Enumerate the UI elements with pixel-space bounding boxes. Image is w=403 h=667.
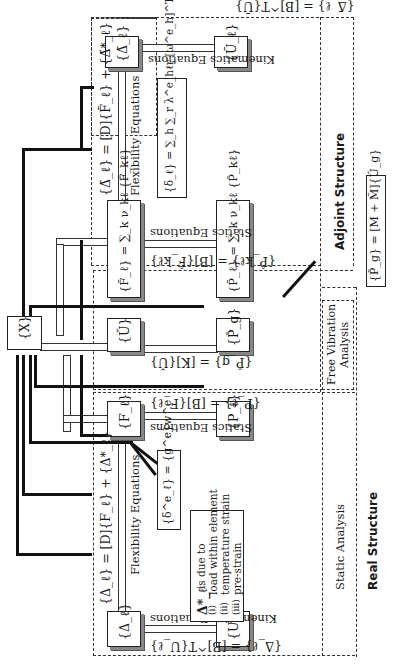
real-flexibility-eq: {Δ_ℓ} = [D]{F_ℓ} + {Δ*_ℓ}	[98, 431, 114, 605]
adjoint-statics-eq: {P̂_kℓ} = [B]{F̂_kℓ}	[150, 253, 276, 269]
x-vertical-link-a	[56, 244, 64, 336]
adjoint-flexibility-eq: {Δ̄_ℓ} = [D]{F̄_ℓ} + {Δ̄*_ℓ}	[98, 22, 114, 196]
real-structure-top	[322, 287, 356, 288]
free-vibration-eq: {P̌_g} = [K]{Ǔ}	[150, 355, 253, 370]
adjoint-structure-label: Adjoint Structure	[333, 133, 347, 250]
x-to-delta-star2-v	[22, 355, 25, 495]
x-to-fbar-link	[56, 238, 110, 246]
free-vibration-label-1: Free Vibration	[325, 304, 338, 385]
delta-l-node: {Δ_ℓ}	[107, 611, 141, 647]
note-item-3-text: pre-strain	[231, 542, 243, 595]
pg-mass-label: {P̌_g} = [M + M̃]{Ǔ_g}	[368, 149, 381, 282]
pg-mass-node: {P̌_g} = [M + M̃]{Ǔ_g}	[366, 175, 386, 287]
x-to-fbar-thick-h	[29, 305, 204, 308]
p-check-node: {P̌_g}	[216, 318, 250, 352]
x-to-delta-bar-arrow-v2	[80, 87, 83, 149]
x-to-delta-l-h	[16, 553, 92, 556]
x-to-delta-star-h	[29, 441, 133, 444]
delta-sum-box: {δ_ℓ} = ∑_h ∑_r λ^e_hℓr [ω^e_h]^T {s^e_h…	[157, 78, 187, 198]
p-check-label: {P̌_g}	[226, 307, 241, 346]
x-to-fbar-thick2	[80, 240, 83, 340]
static-analysis-divider	[322, 392, 323, 656]
note-item-2-text: temperature strain	[219, 494, 231, 595]
free-vibration-bottom	[93, 389, 323, 390]
static-analysis-label: Static Analysis	[333, 504, 347, 590]
adjoint-kinematics-eq: {Δ̄_ℓ} = [B]^T{Ū}	[235, 0, 355, 14]
adjoint-kinematics-link	[138, 44, 215, 52]
real-kinematics-eq: {Δ_ℓ} = [B]^T{U_ℓ}	[150, 638, 282, 654]
x-to-fl-thick-v	[80, 355, 83, 437]
adjoint-flexibility-label: Flexibility Equations	[128, 76, 142, 196]
free-vibration-label-2: Analysis	[338, 322, 351, 368]
real-structure-label: Real Structure	[366, 492, 380, 590]
delta-e-eq: {δ^e_ℓ} = {g^e}w^e	[161, 400, 174, 525]
outer-adjoint-left	[91, 17, 92, 265]
note-line0: is due to	[195, 543, 207, 589]
x-to-k-thick-v	[34, 355, 37, 386]
u-check-label: {Ǔ}	[117, 318, 132, 344]
x-to-ucheck-link	[40, 343, 108, 351]
delta-star-note: Δ*_ℓ is due to (i) load within element (…	[190, 510, 244, 622]
real-kinematics-link	[140, 625, 218, 633]
real-structure-bottom	[93, 655, 355, 656]
note-item-2-num: (ii)	[219, 602, 229, 615]
delta-l-label: {Δ_ℓ}	[117, 603, 133, 640]
x-to-delta-l-v	[16, 355, 19, 555]
free-vibration-left	[93, 270, 94, 390]
real-statics-link	[141, 412, 218, 420]
adjoint-statics-label: Statics Equations	[150, 226, 252, 240]
x-to-k-thick-h	[34, 385, 204, 388]
real-structure-left	[93, 392, 94, 656]
x-to-f-link	[63, 415, 109, 423]
p-bar-label: {P̄_ℓ} = ∑_k ν_kℓ {P̂_kℓ}	[226, 148, 240, 293]
x-to-delta-star2-h	[22, 493, 92, 496]
x-node: {X}	[7, 316, 42, 350]
note-item-1-text: load within element	[207, 489, 219, 595]
delta-e-box: {δ^e_ℓ} = {g^e}w^e	[157, 450, 181, 530]
free-vibration-link	[141, 345, 218, 353]
x-to-delta-bar-arrow-v	[22, 149, 25, 340]
delta-bar-label: {Δ̄_ℓ}	[115, 25, 131, 62]
f-bar-node: {F̄_ℓ} = ∑_k ν_kℓ {F̂_kℓ}	[107, 200, 141, 298]
adjoint-statics-link	[141, 240, 218, 248]
x-to-delta-star-v	[29, 355, 32, 443]
delta-sum-eq: {δ_ℓ} = ∑_h ∑_r λ^e_hℓr [ω^e_h]^T {s^e_h…	[163, 0, 175, 193]
note-item-1-num: (i)	[207, 605, 217, 615]
real-structure-top-line	[356, 287, 357, 657]
u-check-node: {Ǔ}	[107, 318, 141, 352]
note-item-3-num: (iii)	[231, 599, 241, 615]
x-to-delta-bar-arrow-h2	[80, 86, 94, 89]
x-node-label: {X}	[17, 315, 32, 340]
f-l-label: {F_ℓ}	[117, 393, 133, 430]
real-flexibility-label: Flexibility Equations	[128, 455, 142, 575]
real-flexibility-link	[118, 437, 126, 614]
p-bar-node: {P̄_ℓ} = ∑_k ν_kℓ {P̂_kℓ}	[216, 200, 250, 298]
